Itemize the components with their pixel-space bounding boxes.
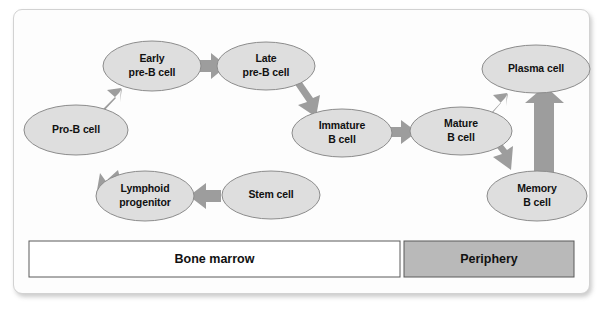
- node-lymphoid-progenitor[interactable]: Lymphoid progenitor: [96, 171, 194, 221]
- compartments-layer: Bone marrow Periphery: [29, 241, 574, 277]
- node-label-mature-b-cell-line2: B cell: [447, 131, 475, 143]
- node-label-memory-b-cell-line2: B cell: [523, 196, 551, 208]
- node-label-plasma-cell: Plasma cell: [508, 62, 564, 74]
- node-pro-b-cell[interactable]: Pro-B cell: [24, 105, 128, 155]
- node-label-early-pre-b-cell-line2: pre-B cell: [129, 66, 176, 78]
- edge-memory-to-plasma: [525, 86, 564, 172]
- compartment-periphery: Periphery: [404, 241, 574, 277]
- figure-root: Pro-B cell Early pre-B cell Late pre-B c…: [0, 0, 607, 309]
- compartment-label-periphery: Periphery: [460, 252, 518, 266]
- node-label-lymphoid-progenitor-line2: progenitor: [119, 196, 171, 208]
- node-label-early-pre-b-cell-line1: Early: [139, 52, 164, 64]
- node-label-pro-b-cell: Pro-B cell: [52, 123, 100, 135]
- node-immature-b-cell[interactable]: Immature B cell: [292, 109, 392, 157]
- node-mature-b-cell[interactable]: Mature B cell: [410, 107, 512, 155]
- b-cell-development-diagram: Pro-B cell Early pre-B cell Late pre-B c…: [0, 0, 607, 309]
- node-label-late-pre-b-cell-line1: Late: [255, 52, 276, 64]
- node-label-immature-b-cell-line2: B cell: [328, 133, 356, 145]
- node-plasma-cell[interactable]: Plasma cell: [482, 45, 590, 93]
- nodes-layer: Pro-B cell Early pre-B cell Late pre-B c…: [24, 41, 590, 221]
- node-label-stem-cell: Stem cell: [248, 188, 293, 200]
- node-stem-cell[interactable]: Stem cell: [222, 171, 320, 219]
- node-memory-b-cell[interactable]: Memory B cell: [487, 171, 587, 221]
- node-label-memory-b-cell-line1: Memory: [517, 182, 557, 194]
- node-label-immature-b-cell-line1: Immature: [319, 119, 366, 131]
- compartment-bone-marrow: Bone marrow: [29, 241, 400, 277]
- node-early-pre-b-cell[interactable]: Early pre-B cell: [103, 41, 201, 91]
- compartment-label-bone-marrow: Bone marrow: [175, 252, 255, 266]
- node-late-pre-b-cell[interactable]: Late pre-B cell: [217, 42, 315, 90]
- node-label-mature-b-cell-line1: Mature: [444, 117, 478, 129]
- node-label-lymphoid-progenitor-line1: Lymphoid: [121, 182, 170, 194]
- node-label-late-pre-b-cell-line2: pre-B cell: [243, 66, 290, 78]
